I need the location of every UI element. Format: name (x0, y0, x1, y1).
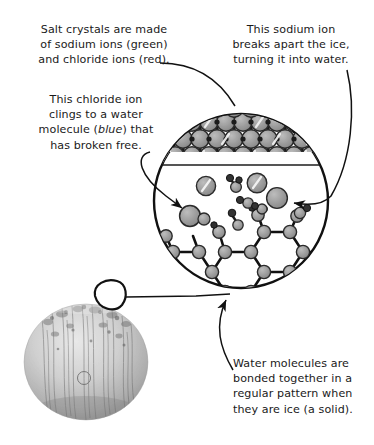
caption-water-molecules: Water molecules are bonded together in a… (233, 356, 374, 417)
caption-chloride-line2: clings to a water (49, 108, 143, 121)
caption-sodium-ion: This sodium ion breaks apart the ice, tu… (212, 22, 370, 68)
caption-chloride-line3-pre: molecule ( (39, 123, 98, 136)
magnified-spot-marker (95, 280, 126, 309)
free-ion-a (196, 176, 215, 195)
illustration-canvas: Salt crystals are made of sodium ions (g… (0, 0, 374, 445)
caption-chloride-line4: has broken free. (50, 139, 142, 152)
free-ion-b (247, 173, 267, 193)
leader-water-to-lattice (220, 300, 233, 370)
caption-chloride-ion: This chloride ion clings to a water mole… (12, 92, 180, 153)
free-sodium-ion (267, 188, 288, 209)
caption-chloride-line3-post: ) that (122, 123, 153, 136)
caption-salt-crystals: Salt crystals are made of sodium ions (g… (14, 22, 194, 68)
caption-chloride-line1: This chloride ion (50, 93, 143, 106)
ice-ball-photograph (24, 286, 148, 428)
leader-photo-to-circle (126, 294, 230, 297)
caption-chloride-blue-word: blue (98, 123, 122, 136)
